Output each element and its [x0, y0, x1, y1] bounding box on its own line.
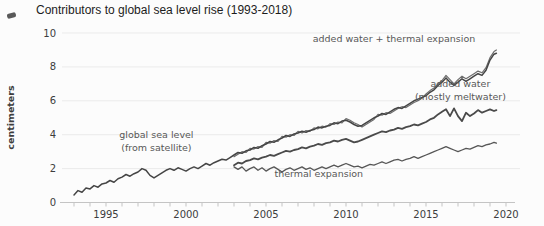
x-tick-label-2010: 2010	[333, 209, 358, 220]
series-line-thermal-expansion	[234, 142, 496, 172]
series-line-sum-added-water-thermal	[234, 50, 496, 157]
y-tick-label-2: 2	[50, 163, 56, 174]
annotation-added-water: added water(mostly meltwater)	[415, 78, 506, 102]
y-tick-label-4: 4	[50, 129, 56, 140]
y-tick-label-10: 10	[43, 28, 56, 39]
chart-svg: 0246810199520002005201020152020added wat…	[0, 0, 544, 226]
annotation-global-sea-level-satellite: global sea level(from satellite)	[119, 129, 193, 153]
y-tick-label-0: 0	[50, 197, 56, 208]
x-tick-label-2015: 2015	[413, 209, 438, 220]
x-tick-label-2000: 2000	[173, 209, 198, 220]
sea-level-rise-figure: Contributors to global sea level rise (1…	[0, 0, 544, 226]
y-tick-label-6: 6	[50, 95, 56, 106]
x-tick-label-1995: 1995	[93, 209, 118, 220]
annotation-thermal-expansion: thermal expansion	[274, 168, 363, 179]
x-tick-label-2020: 2020	[493, 209, 518, 220]
series-line-added-water	[234, 108, 496, 165]
annotation-sum-added-water-thermal: added water + thermal expansion	[313, 33, 476, 44]
x-tick-label-2005: 2005	[253, 209, 278, 220]
y-tick-label-8: 8	[50, 61, 56, 72]
